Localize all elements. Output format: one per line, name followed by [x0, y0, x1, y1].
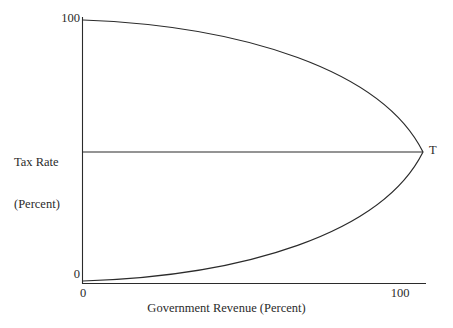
x-axis-tick-100: 100 — [385, 286, 415, 300]
y-axis-title-line1: Tax Rate — [14, 155, 80, 169]
x-axis-title: Government Revenue (Percent) — [0, 301, 453, 315]
y-axis-tick-100: 100 — [54, 11, 80, 25]
laffer-curve-path — [83, 20, 423, 281]
y-axis-tick-0: 0 — [57, 267, 80, 281]
y-axis-title: Tax Rate (Percent) — [14, 127, 80, 239]
y-axis-title-line2: (Percent) — [14, 197, 80, 211]
vertex-label-t: T — [429, 143, 437, 157]
laffer-curve-figure: Tax Rate (Percent) 100 0 0 100 Governmen… — [0, 0, 453, 328]
x-axis-tick-0: 0 — [77, 286, 89, 300]
